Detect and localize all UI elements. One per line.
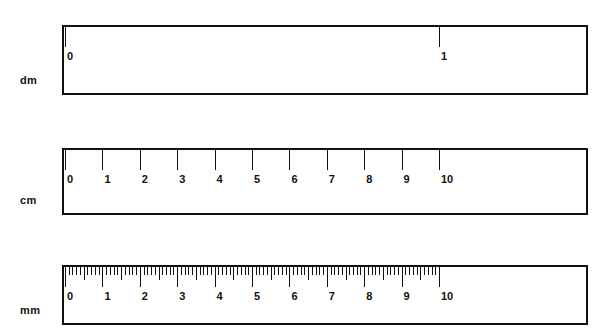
ruler-tick-label: 6	[291, 290, 297, 302]
ruler-tick-major	[439, 27, 440, 47]
ruler-comparison-figure: dm 01 cm 012345678910 mm 012345678910	[0, 0, 614, 336]
ruler-tick-minor	[69, 267, 70, 275]
ruler-tick-half	[233, 267, 234, 280]
ruler-tick-minor	[357, 267, 358, 275]
ruler-tick-minor	[110, 267, 111, 275]
ruler-scale-mm: 012345678910	[64, 267, 586, 323]
ruler-tick-minor	[162, 267, 163, 275]
ruler-tick-minor	[188, 267, 189, 275]
ruler-tick-major	[140, 150, 141, 170]
ruler-tick-minor	[218, 267, 219, 275]
unit-label-dm: dm	[20, 74, 37, 86]
ruler-tick-minor	[282, 267, 283, 275]
ruler-tick-minor	[417, 267, 418, 275]
ruler-tick-major	[140, 267, 141, 287]
ruler-tick-minor	[353, 267, 354, 275]
ruler-tick-minor	[136, 267, 137, 275]
ruler-tick-major	[102, 267, 103, 287]
ruler-tick-minor	[278, 267, 279, 275]
ruler-tick-major	[327, 267, 328, 287]
ruler-tick-major	[215, 267, 216, 287]
ruler-tick-minor	[181, 267, 182, 275]
ruler-tick-label: 5	[254, 290, 260, 302]
ruler-tick-minor	[245, 267, 246, 275]
ruler-tick-label: 9	[404, 173, 410, 185]
unit-label-cm: cm	[20, 194, 37, 206]
ruler-tick-major	[102, 150, 103, 170]
ruler-tick-minor	[170, 267, 171, 275]
ruler-tick-major	[177, 267, 178, 287]
ruler-tick-minor	[274, 267, 275, 275]
ruler-tick-major	[252, 267, 253, 287]
ruler-tick-minor	[230, 267, 231, 275]
ruler-tick-minor	[80, 267, 81, 275]
ruler-tick-major	[252, 150, 253, 170]
ruler-tick-minor	[334, 267, 335, 275]
ruler-tick-minor	[405, 267, 406, 275]
ruler-tick-half	[84, 267, 85, 280]
ruler-tick-major	[65, 27, 66, 47]
ruler-tick-label: 0	[67, 173, 73, 185]
ruler-tick-minor	[413, 267, 414, 275]
ruler-tick-minor	[387, 267, 388, 275]
ruler-tick-minor	[203, 267, 204, 275]
ruler-tick-minor	[435, 267, 436, 275]
ruler-tick-label: 2	[142, 173, 148, 185]
ruler-tick-label: 1	[441, 50, 447, 62]
ruler-tick-major	[177, 150, 178, 170]
ruler-tick-minor	[394, 267, 395, 275]
ruler-tick-label: 0	[67, 50, 73, 62]
ruler-tick-minor	[95, 267, 96, 275]
ruler-tick-minor	[241, 267, 242, 275]
ruler-tick-label: 3	[179, 173, 185, 185]
ruler-tick-minor	[151, 267, 152, 275]
ruler-tick-label: 10	[441, 173, 453, 185]
ruler-tick-major	[215, 150, 216, 170]
ruler-tick-minor	[297, 267, 298, 275]
ruler-body-mm: 012345678910	[62, 265, 588, 325]
ruler-tick-minor	[147, 267, 148, 275]
ruler-tick-minor	[222, 267, 223, 275]
ruler-tick-major	[65, 150, 66, 170]
ruler-tick-minor	[173, 267, 174, 275]
ruler-tick-minor	[263, 267, 264, 275]
ruler-tick-minor	[375, 267, 376, 275]
ruler-tick-minor	[256, 267, 257, 275]
ruler-tick-minor	[428, 267, 429, 275]
ruler-tick-minor	[106, 267, 107, 275]
ruler-tick-minor	[372, 267, 373, 275]
ruler-tick-minor	[409, 267, 410, 275]
ruler-tick-minor	[360, 267, 361, 275]
ruler-tick-minor	[87, 267, 88, 275]
ruler-tick-minor	[312, 267, 313, 275]
unit-label-mm: mm	[20, 304, 40, 316]
ruler-tick-major	[439, 150, 440, 170]
ruler-tick-minor	[114, 267, 115, 275]
ruler-tick-major	[439, 267, 440, 287]
ruler-tick-major	[364, 150, 365, 170]
ruler-tick-label: 3	[179, 290, 185, 302]
ruler-tick-major	[327, 150, 328, 170]
ruler-tick-minor	[226, 267, 227, 275]
ruler-tick-major	[289, 267, 290, 287]
ruler-tick-minor	[211, 267, 212, 275]
ruler-tick-minor	[132, 267, 133, 275]
ruler-tick-minor	[368, 267, 369, 275]
ruler-tick-minor	[267, 267, 268, 275]
ruler-tick-half	[383, 267, 384, 280]
ruler-tick-label: 1	[104, 290, 110, 302]
ruler-tick-minor	[398, 267, 399, 275]
ruler-tick-minor	[323, 267, 324, 275]
ruler-tick-minor	[319, 267, 320, 275]
ruler-tick-minor	[248, 267, 249, 275]
ruler-scale-dm: 01	[64, 27, 586, 93]
ruler-tick-label: 5	[254, 173, 260, 185]
ruler-tick-minor	[72, 267, 73, 275]
ruler-tick-label: 1	[104, 173, 110, 185]
ruler-tick-minor	[125, 267, 126, 275]
ruler-tick-label: 10	[441, 290, 453, 302]
ruler-tick-minor	[304, 267, 305, 275]
ruler-tick-label: 4	[217, 173, 223, 185]
ruler-tick-minor	[99, 267, 100, 275]
ruler-tick-minor	[379, 267, 380, 275]
